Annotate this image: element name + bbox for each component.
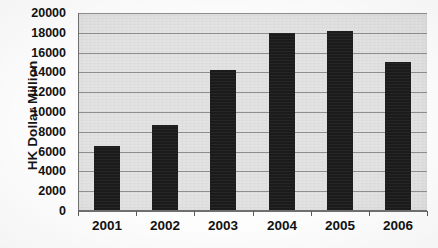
y-tick-label: 2000 <box>18 184 66 198</box>
x-tick-mark <box>253 211 254 216</box>
x-tick-label-2005: 2005 <box>325 218 355 233</box>
y-tick-label: 18000 <box>18 26 66 40</box>
y-tick-label: 10000 <box>18 105 66 119</box>
x-tick-mark <box>427 211 428 216</box>
x-tick-label-2006: 2006 <box>383 218 413 233</box>
y-tick-label: 6000 <box>18 145 66 159</box>
y-tick-label: 8000 <box>18 125 66 139</box>
y-tick-label: 14000 <box>18 65 66 79</box>
y-axis-tick-labels: 2000018000160001400012000100008000600040… <box>18 13 66 211</box>
plot-area <box>78 13 427 211</box>
x-axis-tick-labels: 200120022003200420052006 <box>78 218 427 242</box>
x-tick-label-2004: 2004 <box>267 218 297 233</box>
bar-2001 <box>94 146 120 211</box>
x-axis-tick-marks <box>78 211 427 217</box>
y-tick-label: 0 <box>18 204 66 218</box>
x-tick-mark <box>136 211 137 216</box>
bar-2005 <box>327 31 353 211</box>
bar-2003 <box>210 70 236 211</box>
bars-group <box>78 13 427 211</box>
bar-2002 <box>152 125 178 211</box>
y-tick-label: 4000 <box>18 164 66 178</box>
y-tick-label: 20000 <box>18 6 66 20</box>
x-tick-mark <box>369 211 370 216</box>
bar-2004 <box>269 33 295 211</box>
x-tick-mark <box>78 211 79 216</box>
x-tick-mark <box>311 211 312 216</box>
bar-2006 <box>385 62 411 211</box>
x-tick-label-2002: 2002 <box>150 218 180 233</box>
x-tick-mark <box>194 211 195 216</box>
x-tick-label-2001: 2001 <box>92 218 122 233</box>
x-tick-label-2003: 2003 <box>208 218 238 233</box>
y-tick-label: 16000 <box>18 46 66 60</box>
y-tick-label: 12000 <box>18 85 66 99</box>
bar-chart-figure: HK Dollar Million 2000018000160001400012… <box>0 0 438 248</box>
